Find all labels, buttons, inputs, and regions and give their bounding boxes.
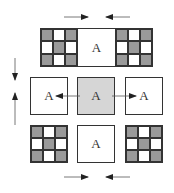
arrows-layer (0, 0, 174, 193)
